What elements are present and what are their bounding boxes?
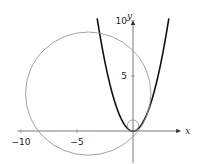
- y-tick-label: 5: [121, 71, 127, 81]
- x-tick-label: −10: [12, 137, 31, 147]
- chart: x y −10−5510: [0, 0, 207, 164]
- labels: x y −10−5510: [12, 11, 191, 147]
- large-circle: [25, 32, 150, 155]
- x-axis-label: x: [185, 126, 190, 136]
- x-axis-arrow: [176, 129, 181, 133]
- y-tick-label: 10: [116, 16, 128, 26]
- y-axis-label: y: [126, 11, 133, 21]
- axes: [18, 20, 182, 163]
- x-tick-label: −5: [70, 137, 83, 147]
- curves: [25, 18, 168, 155]
